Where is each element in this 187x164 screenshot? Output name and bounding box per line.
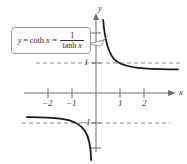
x-axis-label: x: [179, 88, 183, 97]
equation-expression: y = coth x = 1 tanhx: [18, 32, 84, 50]
fraction: 1 tanhx: [60, 32, 84, 50]
equation-callout: y = coth x = 1 tanhx: [11, 27, 91, 54]
y-tick-label-minus-1: −1: [80, 118, 91, 127]
y-tick-label-1: 1: [84, 58, 89, 67]
x-axis-arrow-icon: [168, 90, 176, 96]
x-tick-label-1: 1: [118, 99, 123, 108]
equation-lhs: y: [18, 36, 22, 45]
x-tick-label-minus-1: −1: [66, 99, 77, 108]
curve-coth-right-branch: [103, 20, 178, 69]
plot-canvas: [0, 0, 187, 164]
x-tick-label-2: 2: [142, 99, 147, 108]
coth-function-graph: −2 −1 1 2 1 −1 x y y = coth x = 1 tanhx: [0, 0, 187, 164]
denominator-variable: x: [78, 41, 82, 50]
function-name-coth: coth: [29, 36, 44, 45]
y-axis-label: y: [98, 4, 102, 13]
y-axis-arrow-icon: [93, 13, 99, 20]
fraction-denominator: tanhx: [60, 41, 83, 50]
x-tick-label-minus-2: −2: [42, 99, 53, 108]
equals-sign-1: =: [23, 36, 28, 45]
equation-variable: x: [46, 36, 50, 45]
fraction-numerator: 1: [68, 32, 76, 41]
function-name-tanh: tanh: [62, 41, 76, 50]
equals-sign-2: =: [52, 36, 57, 45]
